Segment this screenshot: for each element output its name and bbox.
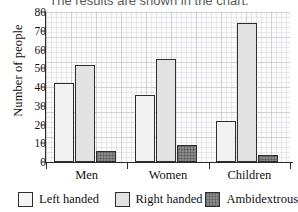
y-tick-mark: [41, 105, 46, 106]
x-axis-separator: [46, 162, 47, 169]
legend-swatch-icon: [115, 192, 130, 207]
legend-label: Right handed: [136, 192, 203, 207]
legend-swatch-icon: [205, 192, 220, 207]
x-category-label: Women: [133, 168, 203, 183]
bar: [135, 95, 155, 163]
y-tick-mark: [41, 68, 46, 69]
legend-label: Left handed: [39, 192, 99, 207]
legend-item: Ambidextrous: [205, 192, 298, 207]
chart-legend: Left handedRight handedAmbidextrous: [0, 186, 298, 212]
y-tick-mark: [41, 124, 46, 125]
x-axis-line: [45, 162, 293, 163]
bar: [237, 23, 257, 162]
x-category-label: Men: [52, 168, 122, 183]
bar: [75, 65, 95, 163]
legend-item: Left handed: [18, 192, 115, 207]
legend-item: Right handed: [115, 192, 206, 207]
legend-label: Ambidextrous: [226, 192, 298, 207]
x-category-label: Children: [214, 168, 284, 183]
x-axis-separator: [127, 162, 128, 169]
bar: [258, 155, 278, 163]
bar: [156, 59, 176, 162]
x-axis-separator: [290, 162, 291, 169]
bar: [96, 151, 116, 162]
legend-swatch-icon: [18, 192, 33, 207]
y-tick-mark: [41, 30, 46, 31]
y-tick-mark: [41, 143, 46, 144]
y-tick-mark: [41, 87, 46, 88]
y-tick-mark: [41, 12, 46, 13]
x-axis-separator: [209, 162, 210, 169]
bar: [177, 145, 197, 162]
bar-chart: Number of people 01020304050607080 MenWo…: [0, 8, 298, 186]
y-tick-mark: [41, 49, 46, 50]
bar: [54, 83, 74, 162]
bar: [216, 121, 236, 162]
